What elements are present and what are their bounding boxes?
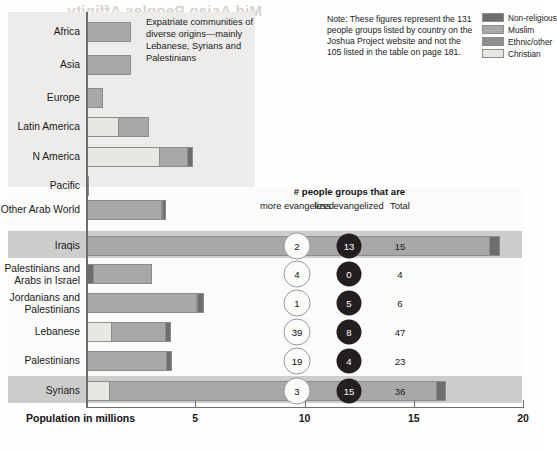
row-label: N America xyxy=(0,151,80,163)
bar-segment-muslim xyxy=(86,200,162,220)
less-evangelized-count: 15 xyxy=(337,379,362,404)
table-row xyxy=(86,381,446,401)
table-row xyxy=(86,200,166,220)
x-axis-tick-label: 15 xyxy=(408,412,420,424)
bar-segment-non-religious xyxy=(165,322,170,342)
more-evangelized-count: 39 xyxy=(284,319,311,346)
x-axis-tick-label: 10 xyxy=(299,412,311,424)
bar-segment-non-religious xyxy=(489,236,500,256)
more-evangelized-count: 19 xyxy=(284,348,311,375)
bar-segment-muslim xyxy=(109,381,437,401)
table-row xyxy=(86,55,131,75)
table-row xyxy=(86,147,193,167)
legend-label-ethnic-other: Ethnic/other xyxy=(508,37,552,47)
bar-segment-christian xyxy=(86,381,110,401)
legend-swatch-christian xyxy=(482,49,504,59)
legend: Non-religious Muslim Ethnic/other Christ… xyxy=(482,12,557,60)
table-row xyxy=(86,264,152,284)
less-evangelized-count: 8 xyxy=(337,320,362,345)
x-axis-tick xyxy=(523,401,524,408)
total-count: 6 xyxy=(397,298,402,309)
row-label: Other Arab World xyxy=(0,204,80,216)
less-evangelized-count: 5 xyxy=(337,291,362,316)
row-label: Syrians xyxy=(0,385,80,397)
x-axis-tick-label: 5 xyxy=(192,412,198,424)
less-evangelized-count: 0 xyxy=(337,262,362,287)
legend-item: Non-religious xyxy=(482,12,557,23)
row-label: Asia xyxy=(0,59,80,71)
bar-segment-non-religious xyxy=(162,200,166,220)
bar-segment-muslim xyxy=(86,293,197,313)
bar-segment-muslim xyxy=(86,351,167,371)
x-axis-title: Population in millions xyxy=(26,412,135,424)
bar-segment-muslim xyxy=(159,147,187,167)
table-row xyxy=(86,293,204,313)
expatriate-annotation: Expatriate communities of diverse origin… xyxy=(146,16,264,64)
total-count: 47 xyxy=(395,327,406,338)
bar-segment-christian xyxy=(86,117,119,137)
more-evangelized-count: 2 xyxy=(284,233,311,260)
bar-segment-non-religious xyxy=(436,381,446,401)
legend-label-muslim: Muslim xyxy=(508,25,534,35)
row-label: Lebanese xyxy=(0,326,80,338)
more-evangelized-count: 4 xyxy=(284,261,311,288)
x-axis-tick xyxy=(195,401,196,408)
row-label: Palestinians and Arabs in Israel xyxy=(0,263,80,286)
row-label: Palestinians xyxy=(0,355,80,367)
bar-segment-muslim xyxy=(87,55,131,75)
total-count: 36 xyxy=(395,386,406,397)
less-evangelized-count: 13 xyxy=(337,234,362,259)
bar-segment-non-religious xyxy=(197,293,205,313)
legend-item: Ethnic/other xyxy=(482,36,557,47)
table-row xyxy=(86,88,103,108)
bar-segment-muslim xyxy=(87,88,102,108)
row-label: Latin America xyxy=(0,121,80,133)
legend-item: Muslim xyxy=(482,24,557,35)
bar-segment-muslim xyxy=(93,264,152,284)
chart-baseline xyxy=(86,12,88,408)
row-label: Africa xyxy=(0,26,80,38)
figure-note: Note: These figures represent the 131 pe… xyxy=(327,14,475,58)
bar-segment-muslim xyxy=(111,322,166,342)
row-label: Pacific xyxy=(0,180,80,192)
table-row xyxy=(86,322,171,342)
legend-label-non-religious: Non-religious xyxy=(508,13,557,23)
x-axis-left-cap xyxy=(86,400,87,408)
bar-segment-christian xyxy=(86,147,160,167)
more-evangelized-count: 1 xyxy=(284,290,311,317)
row-label: Iraqis xyxy=(0,240,80,252)
people-groups-header: # people groups that are xyxy=(262,186,437,197)
table-row xyxy=(86,22,131,42)
less-evangelized-count: 4 xyxy=(337,349,362,374)
bar-segment-non-religious xyxy=(166,351,171,371)
x-axis-tick-label: 20 xyxy=(517,412,529,424)
bar-segment-christian xyxy=(86,322,112,342)
column-header-less-evangelized: less evangelized xyxy=(314,200,383,211)
total-count: 15 xyxy=(395,241,406,252)
table-row xyxy=(86,351,172,371)
legend-swatch-non-religious xyxy=(482,13,504,23)
total-count: 4 xyxy=(397,269,402,280)
legend-item: Christian xyxy=(482,48,557,59)
bar-segment-muslim xyxy=(118,117,149,137)
row-label: Europe xyxy=(0,92,80,104)
table-row xyxy=(86,117,149,137)
bar-segment-muslim xyxy=(87,22,131,42)
total-count: 23 xyxy=(395,356,406,367)
legend-swatch-muslim xyxy=(482,25,504,35)
legend-swatch-ethnic-other xyxy=(482,37,504,47)
bar-segment-non-religious xyxy=(187,147,192,167)
more-evangelized-count: 3 xyxy=(284,378,311,405)
row-label: Jordanians and Palestinians xyxy=(0,292,80,315)
legend-label-christian: Christian xyxy=(508,49,541,59)
x-axis-tick xyxy=(414,401,415,408)
column-header-total: Total xyxy=(390,200,410,211)
